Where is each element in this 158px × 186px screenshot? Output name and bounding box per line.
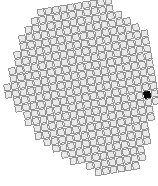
grid-cell[interactable] bbox=[62, 20, 69, 27]
grid-cell[interactable] bbox=[100, 60, 107, 67]
grid-cell[interactable] bbox=[140, 115, 147, 122]
grid-cell[interactable] bbox=[136, 92, 143, 99]
grid-cell[interactable] bbox=[117, 165, 124, 172]
grid-cell[interactable] bbox=[52, 145, 59, 152]
grid-cell[interactable] bbox=[71, 72, 78, 79]
grid-cell[interactable] bbox=[151, 90, 158, 97]
grid-cell[interactable] bbox=[65, 81, 72, 88]
grid-cell[interactable] bbox=[84, 147, 91, 154]
grid-cell[interactable] bbox=[86, 24, 93, 31]
grid-cell[interactable] bbox=[97, 137, 104, 144]
grid-cell[interactable] bbox=[120, 41, 127, 48]
grid-cell[interactable] bbox=[46, 15, 53, 22]
grid-cell[interactable] bbox=[109, 20, 116, 27]
grid-cell[interactable] bbox=[70, 157, 77, 164]
grid-cell[interactable] bbox=[131, 62, 138, 69]
grid-cell[interactable] bbox=[44, 46, 51, 53]
grid-cell[interactable] bbox=[45, 54, 52, 61]
grid-cell[interactable] bbox=[27, 41, 34, 48]
grid-cell[interactable] bbox=[57, 36, 64, 43]
grid-cell[interactable] bbox=[121, 141, 128, 148]
grid-cell[interactable] bbox=[109, 159, 116, 166]
grid-cell[interactable] bbox=[75, 49, 82, 56]
grid-cell[interactable] bbox=[67, 50, 74, 57]
grid-cell[interactable] bbox=[92, 15, 99, 22]
grid-cell[interactable] bbox=[30, 56, 37, 63]
grid-cell[interactable] bbox=[115, 57, 122, 64]
grid-cell[interactable] bbox=[14, 97, 21, 104]
grid-cell[interactable] bbox=[31, 17, 38, 24]
grid-cell[interactable] bbox=[112, 135, 119, 142]
grid-cell[interactable] bbox=[37, 101, 44, 108]
grid-cell[interactable] bbox=[52, 52, 59, 59]
grid-cell[interactable] bbox=[139, 154, 146, 161]
grid-cell[interactable] bbox=[66, 135, 73, 142]
grid-cell[interactable] bbox=[79, 25, 86, 32]
grid-cell[interactable] bbox=[20, 42, 27, 49]
grid-cell[interactable] bbox=[66, 42, 73, 49]
grid-cell[interactable] bbox=[14, 51, 21, 58]
grid-cell[interactable] bbox=[56, 29, 63, 36]
grid-cell[interactable] bbox=[94, 22, 101, 29]
grid-cell[interactable] bbox=[51, 45, 58, 52]
grid-cell[interactable] bbox=[140, 69, 147, 76]
grid-cell[interactable] bbox=[39, 16, 46, 23]
grid-cell[interactable] bbox=[109, 112, 116, 119]
grid-cell[interactable] bbox=[84, 101, 91, 108]
grid-cell[interactable] bbox=[92, 61, 99, 68]
grid-cell[interactable] bbox=[69, 104, 76, 111]
grid-cell[interactable] bbox=[85, 16, 92, 23]
grid-cell[interactable] bbox=[141, 76, 148, 83]
grid-cell[interactable] bbox=[95, 122, 102, 129]
grid-cell[interactable] bbox=[101, 67, 108, 74]
grid-cell[interactable] bbox=[117, 26, 124, 33]
grid-cell[interactable] bbox=[49, 30, 56, 37]
grid-cell[interactable] bbox=[91, 146, 98, 153]
grid-cell[interactable] bbox=[134, 77, 141, 84]
grid-cell[interactable] bbox=[31, 110, 38, 117]
grid-cell[interactable] bbox=[106, 5, 113, 12]
grid-cell[interactable] bbox=[110, 120, 117, 127]
grid-cell[interactable] bbox=[50, 84, 57, 91]
grid-cell[interactable] bbox=[105, 0, 112, 5]
grid-cell[interactable] bbox=[102, 121, 109, 128]
grid-cell[interactable] bbox=[76, 10, 83, 17]
grid-cell[interactable] bbox=[84, 9, 91, 16]
grid-cell[interactable] bbox=[102, 29, 109, 36]
grid-cell[interactable] bbox=[72, 80, 79, 87]
grid-cell[interactable] bbox=[80, 125, 87, 132]
grid-cell[interactable] bbox=[132, 70, 139, 77]
grid-cell[interactable] bbox=[127, 132, 134, 139]
grid-cell[interactable] bbox=[89, 131, 96, 138]
grid-cell[interactable] bbox=[41, 124, 48, 131]
grid-cell[interactable] bbox=[141, 122, 148, 129]
grid-cell[interactable] bbox=[24, 111, 31, 118]
grid-cell[interactable] bbox=[126, 79, 133, 86]
grid-cell[interactable] bbox=[81, 40, 88, 47]
grid-cell[interactable] bbox=[119, 80, 126, 87]
grid-cell[interactable] bbox=[21, 96, 28, 103]
grid-cell[interactable] bbox=[76, 102, 83, 109]
grid-cell[interactable] bbox=[45, 7, 52, 14]
grid-cell[interactable] bbox=[70, 65, 77, 72]
grid-cell[interactable] bbox=[99, 145, 106, 152]
grid-cell[interactable] bbox=[94, 161, 101, 168]
grid-cell[interactable] bbox=[115, 11, 122, 18]
grid-cell[interactable] bbox=[79, 71, 86, 78]
grid-cell[interactable] bbox=[117, 72, 124, 79]
grid-cell[interactable] bbox=[124, 17, 131, 24]
grid-cell[interactable] bbox=[89, 85, 96, 92]
grid-cell[interactable] bbox=[97, 45, 104, 52]
grid-cell[interactable] bbox=[107, 59, 114, 66]
grid-cell[interactable] bbox=[132, 116, 139, 123]
grid-cell[interactable] bbox=[130, 101, 137, 108]
grid-cell[interactable] bbox=[60, 97, 67, 104]
grid-cell[interactable] bbox=[61, 59, 68, 66]
grid-cell[interactable] bbox=[22, 104, 29, 111]
grid-cell[interactable] bbox=[152, 97, 158, 104]
grid-cell[interactable] bbox=[106, 97, 113, 104]
grid-cell[interactable] bbox=[5, 91, 12, 98]
grid-cell[interactable] bbox=[81, 132, 88, 139]
grid-cell[interactable] bbox=[82, 47, 89, 54]
grid-cell[interactable] bbox=[45, 100, 52, 107]
